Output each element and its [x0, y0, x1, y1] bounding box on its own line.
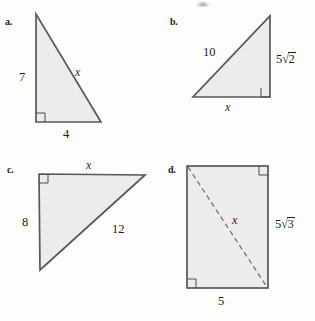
radicand-d: 3 — [287, 217, 294, 231]
label-b-horizontal-leg: x — [225, 101, 230, 113]
label-b-hypotenuse: 10 — [203, 46, 216, 59]
label-d-height: 5√3 — [275, 217, 295, 231]
worksheet-page: a. 7 4 x b. 10 5√2 x c. x 8 12 d. — [0, 0, 315, 321]
label-d-diagonal: x — [232, 214, 237, 226]
label-c-vertical-leg: 8 — [22, 216, 28, 229]
triangle-a-shape — [36, 14, 101, 122]
figure-d-drawing — [155, 150, 315, 321]
label-a-hypotenuse: x — [75, 66, 80, 78]
radical-expression-d: 5√3 — [275, 217, 295, 231]
figure-c-drawing — [0, 150, 160, 321]
label-a-vertical-leg: 7 — [19, 71, 25, 84]
radical-expression-b: 5√2 — [276, 52, 296, 66]
figure-b-drawing — [155, 0, 315, 150]
label-b-vertical-leg: 5√2 — [276, 52, 296, 66]
label-d-width: 5 — [218, 295, 224, 308]
figure-c — [0, 150, 160, 321]
label-c-top-leg: x — [86, 159, 91, 171]
figure-b — [155, 0, 315, 150]
triangle-c-shape — [39, 174, 145, 270]
label-a-horizontal-leg: 4 — [63, 128, 69, 141]
label-c-hypotenuse: 12 — [112, 223, 125, 236]
figure-d — [155, 150, 315, 321]
radicand-b: 2 — [288, 52, 295, 66]
